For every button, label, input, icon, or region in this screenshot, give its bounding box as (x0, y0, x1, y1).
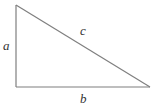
side-c-hypotenuse (16, 5, 150, 87)
label-a: a (3, 38, 10, 53)
label-b: b (80, 91, 87, 106)
triangle-diagram: a c b (0, 0, 160, 106)
label-c: c (80, 23, 86, 38)
